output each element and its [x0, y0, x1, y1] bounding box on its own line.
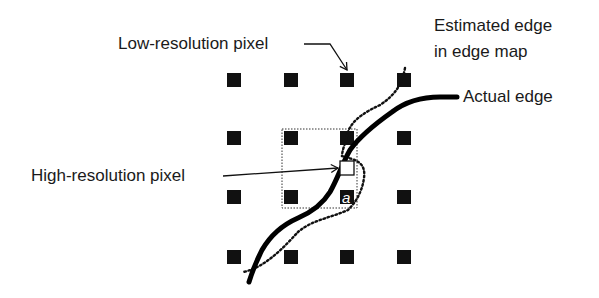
estimated-edge-label-line1: Estimated edge: [434, 16, 552, 36]
low-res-pixel: [340, 73, 354, 87]
low-res-pixel: [284, 190, 298, 204]
low-res-pixel: [284, 131, 298, 145]
low-res-pixel: [397, 131, 411, 145]
low-res-pixel: [227, 190, 241, 204]
low-res-pixel: [227, 250, 241, 264]
low-res-pixel: [397, 250, 411, 264]
low-res-pixel: [397, 190, 411, 204]
low-res-pixel: [340, 250, 354, 264]
high-res-leader-arrow: [223, 168, 338, 176]
estimated-edge-label-line2: in edge map: [434, 42, 528, 62]
actual-edge-label: Actual edge: [463, 87, 553, 107]
low-res-pixel-label: Low-resolution pixel: [118, 34, 268, 54]
low-res-pixel: [227, 73, 241, 87]
low-res-pixel: [284, 73, 298, 87]
high-resolution-pixel: [340, 161, 354, 175]
pixel-a-label: a: [342, 189, 350, 206]
low-res-pixel: [227, 131, 241, 145]
low-res-pixel: [284, 250, 298, 264]
low-res-leader-arrow: [304, 44, 347, 70]
high-res-pixel-label: High-resolution pixel: [31, 166, 185, 186]
